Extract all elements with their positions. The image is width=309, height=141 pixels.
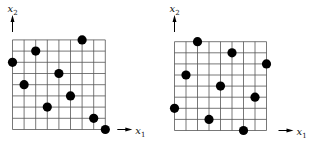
x-axis-arrow bbox=[117, 128, 132, 132]
right-panel: x2x1 bbox=[170, 3, 307, 140]
data-point bbox=[101, 125, 110, 134]
data-point bbox=[216, 82, 225, 91]
y-axis-label: x2 bbox=[170, 3, 180, 17]
data-point bbox=[43, 103, 52, 112]
data-point bbox=[8, 58, 17, 67]
y-axis-arrow bbox=[11, 15, 15, 32]
data-point bbox=[31, 47, 40, 56]
latin-hypercube-diagram: x2x1x2x1 bbox=[0, 0, 309, 141]
data-point bbox=[20, 80, 29, 89]
data-point bbox=[239, 126, 248, 135]
x-axis-arrow bbox=[279, 129, 294, 133]
data-point bbox=[204, 115, 213, 124]
y-axis-arrow bbox=[173, 15, 177, 32]
data-point bbox=[193, 37, 202, 46]
left-panel: x2x1 bbox=[8, 3, 146, 139]
y-axis-label: x2 bbox=[8, 3, 18, 17]
data-point bbox=[227, 48, 236, 57]
data-point bbox=[78, 35, 87, 44]
x-axis-label: x1 bbox=[135, 125, 145, 139]
data-point bbox=[54, 69, 63, 78]
data-point bbox=[89, 114, 98, 123]
data-point bbox=[262, 59, 271, 68]
data-point bbox=[170, 104, 179, 113]
data-point bbox=[250, 93, 259, 102]
data-point bbox=[66, 91, 75, 100]
data-point bbox=[181, 70, 190, 79]
x-axis-label: x1 bbox=[297, 126, 307, 140]
